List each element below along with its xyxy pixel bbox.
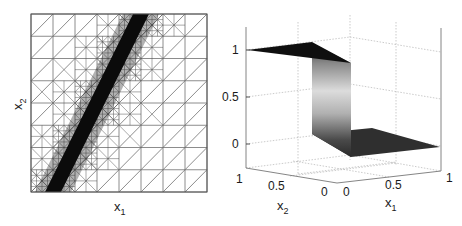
x1-tick-0: 0 bbox=[343, 185, 350, 199]
surface-upper-plane bbox=[247, 42, 351, 63]
z-tick-1: 1 bbox=[232, 43, 239, 57]
x2-tick-0.5: 0.5 bbox=[268, 179, 285, 193]
x1-ticks: 0 0.5 1 bbox=[343, 171, 453, 199]
mesh-plot: x1 x2 bbox=[10, 14, 207, 217]
x2-tick-1: 1 bbox=[236, 172, 243, 186]
x1-tick-1: 1 bbox=[446, 171, 453, 185]
x1-axis-label-3d: x1 bbox=[385, 195, 397, 213]
figure: x1 x2 bbox=[0, 0, 462, 226]
x1-tick-0.5: 0.5 bbox=[385, 178, 402, 192]
z-tick-0.5: 0.5 bbox=[222, 90, 239, 104]
x2-axis-label: x2 bbox=[10, 98, 28, 110]
x2-ticks: 1 0.5 0 bbox=[236, 172, 328, 199]
x2-tick-0: 0 bbox=[321, 185, 328, 199]
x1-axis-label: x1 bbox=[114, 199, 126, 217]
x2-axis-label-3d: x2 bbox=[277, 198, 289, 216]
surface-plot: 1 0.5 0 1 0.5 0 0 0.5 1 x2 x1 bbox=[222, 15, 453, 216]
z-tick-0: 0 bbox=[232, 137, 239, 151]
